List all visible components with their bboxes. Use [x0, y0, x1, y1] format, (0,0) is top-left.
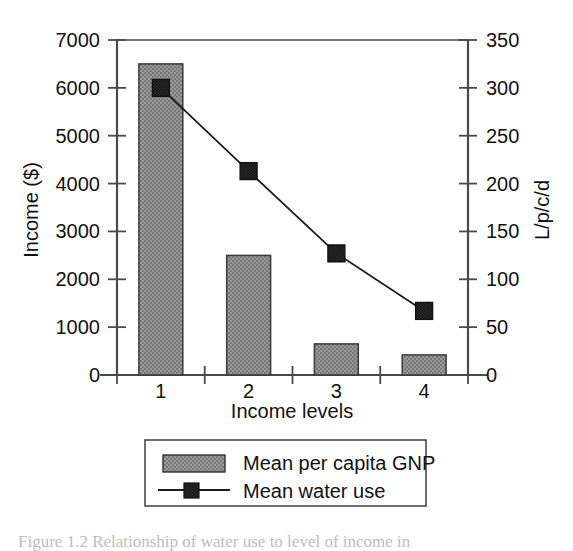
y-tick-label-left-3000: 3000 [56, 220, 101, 242]
y-tick-label-left-4000: 4000 [56, 173, 101, 195]
marker-income-level-1 [152, 79, 169, 96]
marker-income-level-4 [416, 302, 433, 319]
y-tick-label-right-300: 300 [486, 77, 519, 99]
y-tick-label-left-1000: 1000 [56, 316, 101, 338]
chart-svg: 01000200030004000500060007000 0501001502… [0, 0, 573, 551]
bar-income-level-1 [139, 64, 183, 375]
y-tick-label-right-0: 0 [486, 364, 497, 386]
legend-label-mean-water-use: Mean water use [243, 480, 385, 502]
y-tick-label-left-0: 0 [89, 364, 100, 386]
y-tick-label-left-6000: 6000 [56, 77, 101, 99]
x-tick-label-4: 4 [419, 380, 430, 402]
legend-label-mean-per-capita-gnp: Mean per capita GNP [243, 452, 435, 474]
y-axis-right-title: L/p/c/d [531, 180, 553, 240]
bar-income-level-4 [402, 355, 446, 375]
legend-swatch-bar [163, 455, 225, 472]
x-tick-label-3: 3 [331, 380, 342, 402]
bar-income-level-3 [314, 344, 358, 375]
legend: Mean per capita GNP Mean water use [145, 440, 435, 506]
y-tick-label-right-100: 100 [486, 268, 519, 290]
figure-caption: Figure 1.2 Relationship of water use to … [18, 529, 573, 551]
y-tick-label-left-2000: 2000 [56, 268, 101, 290]
y-tick-label-right-350: 350 [486, 29, 519, 51]
y-axis-left-title: Income ($) [20, 162, 42, 258]
y-tick-label-left-7000: 7000 [56, 29, 101, 51]
marker-income-level-2 [240, 163, 257, 180]
legend-swatch-marker [184, 483, 199, 498]
figure-container: 01000200030004000500060007000 0501001502… [0, 0, 573, 551]
y-tick-label-right-200: 200 [486, 173, 519, 195]
y-tick-label-left-5000: 5000 [56, 125, 101, 147]
marker-income-level-3 [328, 245, 345, 262]
y-tick-label-right-150: 150 [486, 220, 519, 242]
x-tick-label-1: 1 [155, 380, 166, 402]
y-tick-label-right-50: 50 [486, 316, 508, 338]
x-tick-label-2: 2 [243, 380, 254, 402]
bar-income-level-2 [227, 255, 271, 375]
y-tick-label-right-250: 250 [486, 125, 519, 147]
legend-item-mean-per-capita-gnp[interactable]: Mean per capita GNP [163, 452, 435, 474]
x-axis-title: Income levels [231, 400, 353, 422]
